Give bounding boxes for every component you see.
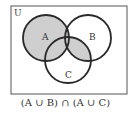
set-c-label: C [65,70,72,80]
set-b-label: B [89,32,96,42]
universe-label: U [14,8,22,18]
caption: (A ∪ B) ∩ (A ∪ C) [0,97,131,108]
set-a-label: A [41,32,49,42]
